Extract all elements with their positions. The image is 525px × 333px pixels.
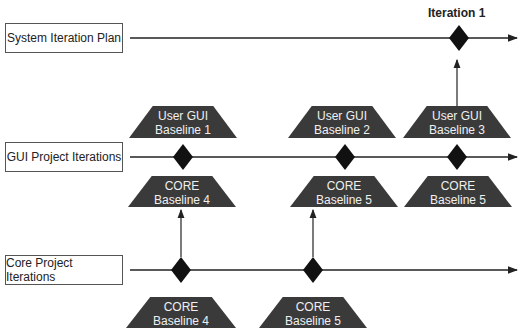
lane-label-gui: GUI Project Iterations bbox=[5, 142, 123, 172]
milestone-diamond-icon bbox=[303, 257, 323, 283]
milestone-diamond-icon bbox=[449, 25, 469, 51]
lane-label-system: System Iteration Plan bbox=[5, 23, 123, 53]
lane-label-core: Core Project Iterations bbox=[5, 255, 123, 285]
baseline-user-gui-2: User GUIBaseline 2 bbox=[288, 106, 396, 138]
baseline-user-gui-3: User GUIBaseline 3 bbox=[403, 106, 511, 138]
baseline-core-4-gui: COREBaseline 4 bbox=[128, 176, 236, 207]
milestone-diamond-icon bbox=[335, 144, 355, 170]
baseline-core-5-gui: COREBaseline 5 bbox=[290, 176, 398, 207]
milestone-diamond-icon bbox=[171, 257, 191, 283]
milestone-diamond-icon bbox=[447, 144, 467, 170]
baseline-core-4: COREBaseline 4 bbox=[126, 297, 236, 328]
iteration-label: Iteration 1 bbox=[428, 6, 485, 20]
baseline-core-5-gui-b: COREBaseline 5 bbox=[404, 176, 512, 207]
baseline-core-5: COREBaseline 5 bbox=[259, 297, 367, 328]
baseline-user-gui-1: User GUIBaseline 1 bbox=[129, 106, 237, 138]
milestone-diamond-icon bbox=[173, 144, 193, 170]
